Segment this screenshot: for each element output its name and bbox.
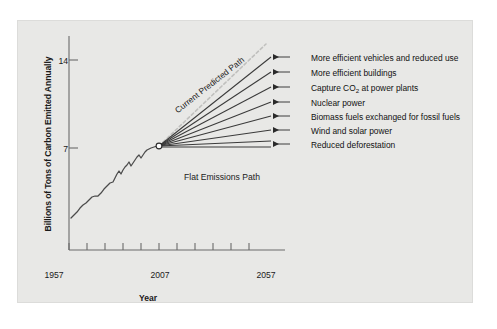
chart-panel: Billions of Tons of Carbon Emitted Annua…	[17, 20, 473, 303]
annotation-current-predicted-path: Current Predicted Path	[173, 55, 246, 115]
legend-capture-co2-subscript: 2	[356, 87, 359, 94]
legend-item-capture-co2: Capture CO2 at power plants	[311, 83, 418, 94]
x-axis-title: Year	[18, 293, 278, 303]
x-tick-label-1957: 1957	[34, 270, 74, 280]
legend-item-reduced-deforestation: Reduced deforestation	[311, 140, 395, 150]
figure-root: Billions of Tons of Carbon Emitted Annua…	[0, 0, 497, 329]
legend-capture-co2-pre: Capture CO	[311, 83, 356, 93]
y-tick-label-14: 14	[38, 56, 68, 66]
legend-item-more-efficient-buildings: More efficient buildings	[311, 68, 397, 78]
y-tick-label-7: 7	[38, 144, 68, 154]
x-tick-label-2007: 2007	[140, 270, 180, 280]
legend-item-biomass-fuels: Biomass fuels exchanged for fossil fuels	[311, 112, 460, 122]
legend-item-more-efficient-vehicles: More efficient vehicles and reduced use	[311, 53, 458, 63]
annotation-flat-emissions-path: Flat Emissions Path	[184, 172, 260, 182]
legend-capture-co2-post: at power plants	[359, 83, 418, 93]
legend-item-nuclear-power: Nuclear power	[311, 98, 365, 108]
legend-item-wind-solar: Wind and solar power	[311, 126, 392, 136]
x-tick-label-2057: 2057	[246, 270, 286, 280]
